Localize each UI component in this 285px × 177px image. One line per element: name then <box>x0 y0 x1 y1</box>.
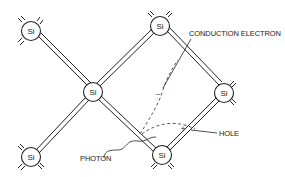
hole-leader <box>191 130 217 133</box>
atom-si-bottom-center: Si <box>153 146 172 165</box>
conduction-electron-label: CONDUCTION ELECTRON <box>189 29 281 38</box>
atom-label: Si <box>158 151 165 160</box>
atom-si-center: Si <box>84 83 103 102</box>
bond-bottom-left-center <box>36 97 89 153</box>
photon-label: PHOTON <box>80 154 111 163</box>
atom-si-bottom-left: Si <box>22 148 41 167</box>
atom-label: Si <box>220 89 227 98</box>
electron-path <box>140 60 195 134</box>
atom-si-right: Si <box>215 84 234 103</box>
atom-label: Si <box>89 88 96 97</box>
atom-label: Si <box>156 22 163 31</box>
atom-label: Si <box>27 27 34 36</box>
atom-si-top-center: Si <box>151 17 170 36</box>
hole-sign: + <box>181 124 186 133</box>
atom-si-top-left: Si <box>22 22 41 41</box>
hole-label: HOLE <box>219 129 239 138</box>
conduction-electron-leader <box>163 39 191 88</box>
bond-right-bottom-center <box>166 98 219 151</box>
bond-top-left-center <box>37 32 91 86</box>
atom-label: Si <box>27 153 34 162</box>
bonds <box>36 27 222 153</box>
bond-center-top-center <box>97 29 155 86</box>
electron-sign: – <box>156 89 161 98</box>
silicon-lattice-diagram: Si Si Si Si Si Si – + CONDUCTION ELECTRO… <box>0 0 285 177</box>
